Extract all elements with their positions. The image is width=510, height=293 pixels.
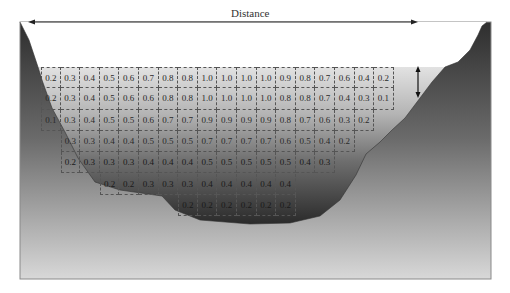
grid-cell: 0.5 xyxy=(119,110,139,131)
grid-cell: 0.6 xyxy=(119,67,139,88)
distance-label: Distance xyxy=(231,7,269,19)
grid-cell: 0.3 xyxy=(355,88,375,109)
grid-cell: 1.0 xyxy=(198,67,218,88)
grid-cell: 0.4 xyxy=(198,174,218,195)
grid-cell: 1.0 xyxy=(217,67,237,88)
grid-cell: 1.0 xyxy=(257,67,277,88)
air-region xyxy=(20,22,487,67)
grid-cell: 0.2 xyxy=(374,67,394,88)
grid-cell: 0.8 xyxy=(276,110,296,131)
grid-cell: 0.7 xyxy=(296,110,316,131)
grid-cell: 0.6 xyxy=(139,88,159,109)
grid-cell: 0.7 xyxy=(257,131,277,152)
grid-cell: 0.8 xyxy=(296,88,316,109)
grid-cell: 0.4 xyxy=(237,174,257,195)
grid-cell: 0.3 xyxy=(61,67,81,88)
grid-cell: 0.4 xyxy=(80,88,100,109)
grid-cell: 0.7 xyxy=(237,131,257,152)
grid-cell: 1.0 xyxy=(257,88,277,109)
grid-cell: 0.2 xyxy=(41,67,61,88)
grid-cell: 0.4 xyxy=(296,152,316,173)
grid-cell: 0.2 xyxy=(178,195,198,216)
grid-cell: 0.6 xyxy=(335,67,355,88)
grid-cell: 0.6 xyxy=(276,131,296,152)
grid-cell: 0.9 xyxy=(217,110,237,131)
grid-cell: 0.4 xyxy=(335,88,355,109)
grid-cell: 0.1 xyxy=(374,88,394,109)
grid-cell: 1.0 xyxy=(198,88,218,109)
river-cross-section-diagram: Distance 0.20.30.40.50.60.70.80.81.01.01… xyxy=(0,0,510,293)
grid-cell: 0.3 xyxy=(61,88,81,109)
grid-cell: 0.7 xyxy=(217,131,237,152)
grid-cell: 0.2 xyxy=(237,195,257,216)
grid-cell: 0.3 xyxy=(159,174,179,195)
grid-cell: 0.5 xyxy=(178,131,198,152)
grid-cell: 0.4 xyxy=(80,67,100,88)
grid-cell: 0.8 xyxy=(276,88,296,109)
grid-cell: 0.8 xyxy=(178,88,198,109)
grid-cell: 0.5 xyxy=(100,110,120,131)
grid-cell: 0.2 xyxy=(198,195,218,216)
grid-cell: 0.8 xyxy=(159,88,179,109)
grid-cell: 0.3 xyxy=(61,110,81,131)
grid-cell: 0.2 xyxy=(100,174,120,195)
grid-cell: 0.2 xyxy=(41,88,61,109)
grid-cell: 0.5 xyxy=(198,152,218,173)
grid-cell: 0.4 xyxy=(257,174,277,195)
grid-cell: 0.4 xyxy=(276,174,296,195)
grid-cell: 0.2 xyxy=(61,152,81,173)
grid-cell: 0.7 xyxy=(315,67,335,88)
grid-cell: 0.9 xyxy=(257,110,277,131)
grid-cell: 0.3 xyxy=(178,174,198,195)
grid-cell: 0.3 xyxy=(80,152,100,173)
grid-cell: 0.5 xyxy=(159,131,179,152)
grid-cell: 1.0 xyxy=(237,67,257,88)
grid-cell: 0.4 xyxy=(139,152,159,173)
grid-cell: 0.7 xyxy=(315,88,335,109)
grid-cell: 0.5 xyxy=(257,152,277,173)
grid-cell: 0.3 xyxy=(139,174,159,195)
grid-cell: 0.4 xyxy=(119,131,139,152)
grid-cell: 0.8 xyxy=(159,67,179,88)
grid-cell: 0.2 xyxy=(335,131,355,152)
grid-cell: 0.2 xyxy=(257,195,277,216)
grid-cell: 0.2 xyxy=(217,195,237,216)
grid-cell: 0.2 xyxy=(276,195,296,216)
grid-cell: 0.4 xyxy=(217,174,237,195)
grid-cell: 0.9 xyxy=(237,110,257,131)
grid-cell: 0.6 xyxy=(139,110,159,131)
grid-cell: 0.9 xyxy=(276,67,296,88)
grid-cell: 0.1 xyxy=(41,110,61,131)
grid-cell: 0.4 xyxy=(159,152,179,173)
grid-cell: 0.5 xyxy=(217,152,237,173)
grid-cell: 0.5 xyxy=(100,88,120,109)
grid-cell: 0.7 xyxy=(139,67,159,88)
grid-cell: 0.4 xyxy=(100,131,120,152)
grid-cell: 0.7 xyxy=(159,110,179,131)
grid-cell: 1.0 xyxy=(237,88,257,109)
grid-cell: 0.6 xyxy=(119,88,139,109)
grid-cell: 0.7 xyxy=(198,131,218,152)
grid-cell: 0.3 xyxy=(61,131,81,152)
grid-cell: 0.6 xyxy=(315,110,335,131)
grid-cell: 0.2 xyxy=(119,174,139,195)
grid-cell: 0.5 xyxy=(276,152,296,173)
grid-cell: 0.8 xyxy=(178,67,198,88)
grid-cell: 0.3 xyxy=(119,152,139,173)
grid-cell: 0.4 xyxy=(80,110,100,131)
grid-cell: 0.3 xyxy=(80,131,100,152)
grid-cell: 0.5 xyxy=(139,131,159,152)
grid-cell: 0.3 xyxy=(335,110,355,131)
grid-cell: 0.5 xyxy=(296,131,316,152)
grid-cell: 0.5 xyxy=(237,152,257,173)
grid-cell: 0.4 xyxy=(355,67,375,88)
grid-cell: 0.9 xyxy=(198,110,218,131)
grid-cell: 0.3 xyxy=(100,152,120,173)
grid-cell: 0.2 xyxy=(355,110,375,131)
grid-cell: 0.8 xyxy=(296,67,316,88)
grid-cell: 0.3 xyxy=(315,152,335,173)
grid-cell: 1.0 xyxy=(217,88,237,109)
grid-cell: 0.5 xyxy=(100,67,120,88)
grid-cell: 0.4 xyxy=(178,152,198,173)
grid-cell: 0.7 xyxy=(178,110,198,131)
